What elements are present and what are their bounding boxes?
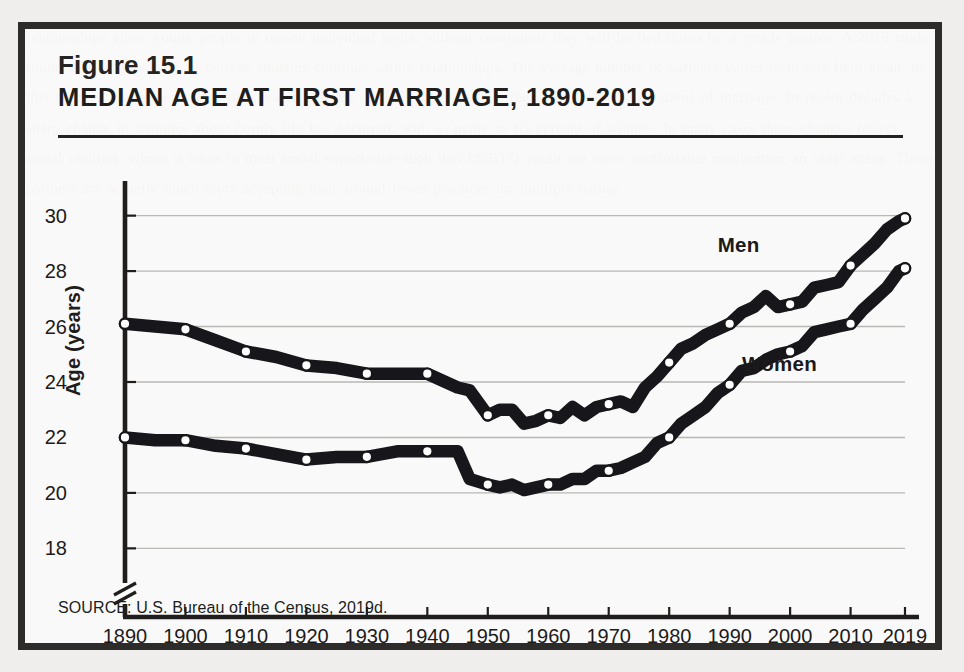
data-point-marker (664, 432, 674, 442)
data-point-marker (543, 479, 553, 489)
data-point-marker (362, 452, 372, 462)
data-point-marker (724, 380, 734, 390)
x-tick-label: 1960 (516, 625, 580, 648)
data-point-marker (785, 299, 795, 309)
y-tick-label: 24 (25, 371, 67, 394)
x-tick-label: 1940 (395, 625, 459, 648)
x-tick-label: 1990 (698, 625, 762, 648)
data-point-marker (120, 432, 130, 442)
data-point-marker (180, 324, 190, 334)
x-tick-label: 1890 (93, 625, 157, 648)
figure-frame: Figure 15.1 MEDIAN AGE AT FIRST MARRIAGE… (18, 22, 942, 650)
data-point-marker (900, 213, 910, 223)
x-tick-label: 1930 (335, 625, 399, 648)
data-point-marker (900, 263, 910, 273)
y-tick-label: 22 (25, 426, 67, 449)
x-tick-label: 1910 (214, 625, 278, 648)
series-label-women: Women (742, 352, 817, 376)
x-tick-label: 1980 (637, 625, 701, 648)
data-point-marker (180, 435, 190, 445)
x-tick-label: 1950 (456, 625, 520, 648)
data-point-marker (362, 368, 372, 378)
y-tick-label: 28 (25, 260, 67, 283)
data-point-marker (483, 479, 493, 489)
data-point-marker (543, 410, 553, 420)
y-tick-label: 20 (25, 482, 67, 505)
source-note: SOURCE: U.S. Bureau of the Census, 2019d… (58, 599, 388, 617)
data-point-marker (301, 454, 311, 464)
x-tick-label: 1970 (577, 625, 641, 648)
data-point-marker (845, 260, 855, 270)
data-point-marker (664, 357, 674, 367)
data-point-marker (120, 319, 130, 329)
series-line (125, 218, 905, 423)
data-point-marker (845, 319, 855, 329)
data-point-marker (301, 360, 311, 370)
chart-plot-area: Age (years) 1820222426283018901900191019… (25, 29, 935, 643)
x-tick-label: 2019 (873, 625, 937, 648)
series-label-men: Men (718, 233, 760, 257)
y-tick-label: 30 (25, 205, 67, 228)
data-point-marker (422, 368, 432, 378)
x-tick-label: 1900 (153, 625, 217, 648)
line-chart (25, 29, 935, 643)
y-tick-label: 18 (25, 537, 67, 560)
data-point-marker (604, 466, 614, 476)
x-tick-label: 2000 (758, 625, 822, 648)
x-tick-label: 1920 (274, 625, 338, 648)
data-point-marker (422, 446, 432, 456)
y-tick-label: 26 (25, 316, 67, 339)
data-point-marker (604, 399, 614, 409)
data-point-marker (724, 319, 734, 329)
data-point-marker (483, 410, 493, 420)
data-point-marker (241, 443, 251, 453)
data-point-marker (241, 346, 251, 356)
